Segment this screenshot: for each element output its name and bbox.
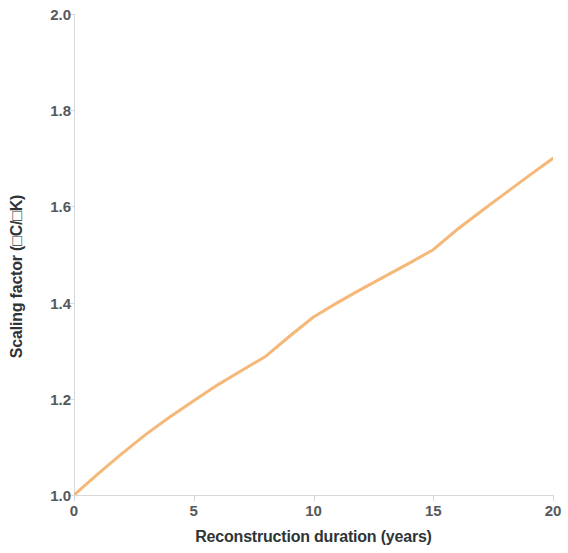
x-tick-mark — [433, 495, 434, 501]
y-tick-label: 2.0 — [50, 6, 71, 23]
y-tick-label: 1.8 — [50, 102, 71, 119]
y-axis-title: Scaling factor (□C/□K) — [0, 0, 34, 553]
y-tick-label: 1.6 — [50, 198, 71, 215]
x-tick-label: 20 — [545, 502, 562, 519]
x-tick-mark — [74, 495, 75, 501]
x-axis-title: Reconstruction duration (years) — [74, 528, 553, 546]
x-tick-label: 0 — [70, 502, 78, 519]
y-tick-label: 1.0 — [50, 487, 71, 504]
y-tick-label: 1.2 — [50, 390, 71, 407]
x-tick-mark — [553, 495, 554, 501]
line-path — [74, 158, 553, 495]
chart-figure: Scaling factor (□C/□K) Reconstruction du… — [0, 0, 568, 553]
line-series-scaling-factor — [74, 14, 553, 495]
x-tick-mark — [194, 495, 195, 501]
x-tick-label: 5 — [190, 502, 198, 519]
x-tick-label: 15 — [425, 502, 442, 519]
y-tick-label: 1.4 — [50, 294, 71, 311]
x-tick-mark — [314, 495, 315, 501]
x-tick-label: 10 — [305, 502, 322, 519]
